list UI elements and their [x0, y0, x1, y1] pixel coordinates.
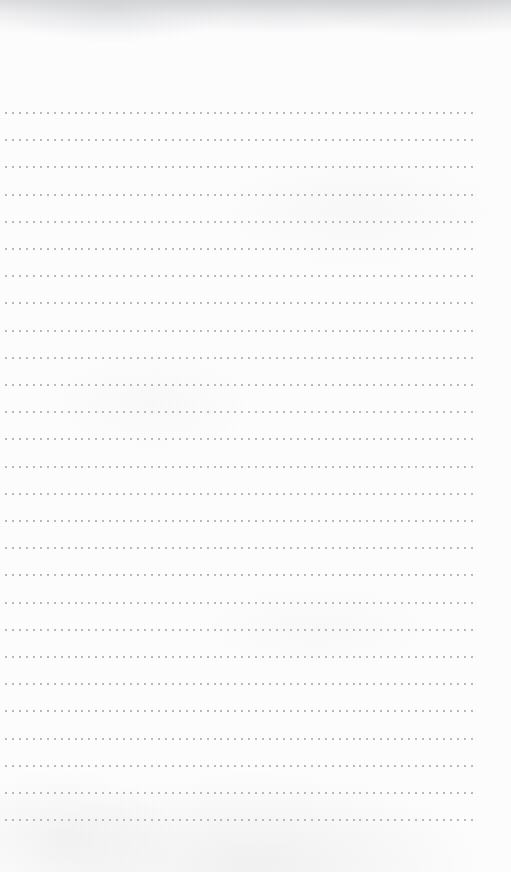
grid-dot — [47, 248, 49, 250]
grid-dot — [137, 275, 139, 277]
grid-dot — [75, 194, 77, 196]
grid-dot — [227, 520, 229, 522]
grid-dot — [144, 411, 146, 413]
grid-dot — [214, 792, 216, 794]
grid-dot — [401, 411, 403, 413]
grid-dot — [276, 520, 278, 522]
grid-dot — [332, 139, 334, 141]
grid-dot — [248, 574, 250, 576]
grid-dot — [207, 547, 209, 549]
grid-dot — [186, 438, 188, 440]
grid-dot — [248, 819, 250, 821]
grid-dot — [394, 656, 396, 658]
grid-dot — [366, 629, 368, 631]
grid-dot — [186, 574, 188, 576]
grid-dot — [353, 302, 355, 304]
grid-dot — [471, 819, 473, 821]
grid-dot — [26, 139, 28, 141]
grid-dot — [33, 547, 35, 549]
grid-dot — [415, 574, 417, 576]
grid-dot — [255, 629, 257, 631]
grid-dot — [380, 765, 382, 767]
grid-dot — [81, 112, 83, 114]
grid-dot — [158, 166, 160, 168]
grid-dot — [123, 656, 125, 658]
grid-dot — [179, 656, 181, 658]
grid-dot — [241, 792, 243, 794]
grid-dot — [158, 520, 160, 522]
grid-dot — [297, 166, 299, 168]
grid-dot — [19, 765, 21, 767]
grid-dot — [269, 683, 271, 685]
grid-dot — [5, 574, 7, 576]
grid-dot — [262, 493, 264, 495]
grid-dot — [33, 819, 35, 821]
grid-dot — [19, 112, 21, 114]
grid-dot — [255, 710, 257, 712]
grid-dot — [81, 330, 83, 332]
grid-dot — [200, 710, 202, 712]
grid-dot — [40, 710, 42, 712]
grid-dot — [158, 411, 160, 413]
grid-dot — [144, 112, 146, 114]
grid-dot — [304, 738, 306, 740]
grid-dot — [436, 493, 438, 495]
grid-dot — [353, 112, 355, 114]
grid-dot — [366, 166, 368, 168]
grid-dot — [297, 221, 299, 223]
grid-dot — [290, 547, 292, 549]
grid-dot — [380, 792, 382, 794]
grid-dot — [61, 330, 63, 332]
grid-dot — [471, 302, 473, 304]
grid-dot — [415, 683, 417, 685]
grid-dot — [144, 819, 146, 821]
grid-dot — [443, 738, 445, 740]
grid-dot — [283, 683, 285, 685]
grid-dot — [415, 710, 417, 712]
grid-dot — [116, 248, 118, 250]
grid-dot — [241, 221, 243, 223]
grid-dot — [54, 819, 56, 821]
grid-dot — [311, 792, 313, 794]
grid-dot — [207, 194, 209, 196]
grid-dot — [380, 275, 382, 277]
grid-dot — [172, 792, 174, 794]
grid-dot — [380, 602, 382, 604]
grid-dot — [151, 765, 153, 767]
paper-grain-overlay — [0, 0, 511, 872]
grid-dot — [457, 738, 459, 740]
grid-dot — [255, 683, 257, 685]
grid-dot — [123, 574, 125, 576]
grid-dot — [443, 547, 445, 549]
grid-dot — [220, 330, 222, 332]
grid-dot — [47, 765, 49, 767]
grid-dot — [109, 738, 111, 740]
grid-dot — [325, 819, 327, 821]
grid-dot — [276, 819, 278, 821]
grid-dot — [123, 738, 125, 740]
grid-dot — [130, 275, 132, 277]
grid-dot — [276, 139, 278, 141]
grid-dot — [276, 738, 278, 740]
grid-dot — [12, 221, 14, 223]
grid-dot — [394, 819, 396, 821]
grid-dot — [429, 302, 431, 304]
grid-dot — [366, 466, 368, 468]
grid-dot — [353, 710, 355, 712]
grid-dot — [214, 710, 216, 712]
grid-dot — [33, 112, 35, 114]
grid-dot — [12, 683, 14, 685]
grid-dot — [387, 520, 389, 522]
paper-texture — [0, 0, 511, 872]
grid-dot — [380, 520, 382, 522]
grid-dot — [214, 221, 216, 223]
grid-dot — [283, 738, 285, 740]
grid-dot — [130, 710, 132, 712]
grid-dot — [450, 194, 452, 196]
grid-dot — [109, 602, 111, 604]
grid-dot — [88, 602, 90, 604]
grid-dot — [325, 330, 327, 332]
grid-dot — [457, 765, 459, 767]
grid-dot — [429, 166, 431, 168]
grid-dot — [241, 166, 243, 168]
